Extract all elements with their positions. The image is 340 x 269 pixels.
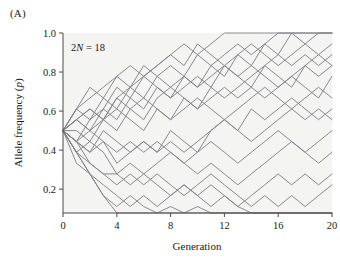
x-axis-title: Generation xyxy=(173,240,222,252)
y-axis-title-suffix: ) xyxy=(12,78,25,82)
y-axis-title: Allele frequency (p) xyxy=(12,78,25,168)
annotation-suffix: = 18 xyxy=(83,42,105,53)
y-tick-label: 0.8 xyxy=(43,67,56,78)
allele-frequency-drift-chart: 0.20.40.60.81.0 048121620 Generation All… xyxy=(0,0,340,269)
plot-background xyxy=(63,33,332,213)
x-tick-label: 16 xyxy=(273,220,284,231)
x-tick-label: 20 xyxy=(327,220,338,231)
x-tick-label: 4 xyxy=(114,220,120,231)
x-axis-ticks: 048121620 xyxy=(60,213,337,231)
figure-panel-a: (A) 0.20.40.60.81.0 048121620 Generation… xyxy=(0,0,340,269)
y-axis-ticks: 0.20.40.60.81.0 xyxy=(43,28,63,195)
y-axis-title-prefix: Allele frequency ( xyxy=(12,87,25,167)
x-tick-label: 12 xyxy=(219,220,230,231)
x-tick-label: 8 xyxy=(168,220,173,231)
x-tick-label: 0 xyxy=(60,220,65,231)
population-size-annotation: 2N = 18 xyxy=(71,42,105,53)
y-tick-label: 0.6 xyxy=(43,106,56,117)
y-tick-label: 0.4 xyxy=(43,145,57,156)
y-tick-label: 1.0 xyxy=(43,28,56,39)
y-tick-label: 0.2 xyxy=(43,184,56,195)
